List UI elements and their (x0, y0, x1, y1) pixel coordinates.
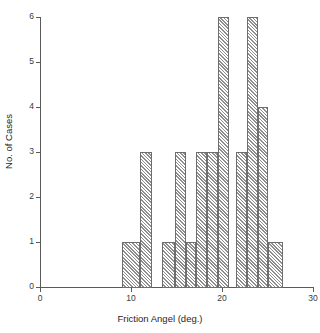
x-tick-label: 30 (301, 294, 320, 303)
histogram-bar (196, 152, 207, 288)
histogram-bar (247, 17, 259, 288)
histogram-bar (207, 152, 219, 288)
x-axis-title: Friction Angel (deg.) (0, 313, 320, 324)
histogram-bar (140, 152, 152, 288)
histogram-bar (236, 152, 247, 288)
histogram-bar (162, 242, 175, 288)
x-tick-label: 20 (210, 294, 234, 303)
x-tick-label: 0 (28, 294, 52, 303)
y-tick-label: 1 (14, 237, 34, 246)
y-tick-label: 6 (14, 12, 34, 21)
histogram-bars (40, 17, 314, 288)
y-tick-label: 2 (14, 192, 34, 201)
x-tick-mark (131, 288, 132, 292)
histogram-bar (258, 107, 268, 288)
y-tick-label: 4 (14, 102, 34, 111)
y-tick-label: 0 (14, 282, 34, 291)
y-tick-label: 3 (14, 147, 34, 156)
histogram-bar (175, 152, 186, 288)
x-tick-mark (313, 288, 314, 292)
histogram-bar (268, 242, 283, 288)
histogram-bar (186, 242, 196, 288)
x-tick-mark (222, 288, 223, 292)
histogram-bar (218, 17, 229, 288)
y-axis-title: No. of Cases (3, 82, 14, 202)
histogram-bar (122, 242, 140, 288)
x-tick-mark (40, 288, 41, 292)
y-tick-label: 5 (14, 57, 34, 66)
x-tick-label: 10 (119, 294, 143, 303)
histogram-figure: 0123456 0102030 Friction Angel (deg.) No… (0, 0, 320, 333)
